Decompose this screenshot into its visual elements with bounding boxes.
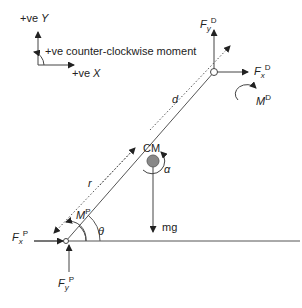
fyP-label: FyP [58,278,74,289]
legend-x-label: +ve X [72,68,100,79]
alpha-label: α [164,164,170,175]
center-of-mass [147,155,159,167]
fyD-label: FyD [200,19,217,30]
mD-arrow [235,85,256,100]
legend-moment-label: +ve counter-clockwise moment [45,46,196,57]
fxP-label: FxP [12,232,28,243]
d-label: d [172,94,178,105]
r-label: r [88,178,92,189]
proximal-joint [64,239,69,244]
mg-label: mg [162,222,177,233]
distal-joint [211,69,218,76]
fxD-label: FxD [254,66,271,77]
mP-label: MP [76,210,91,221]
dimension-r [54,148,135,233]
legend-y-label: +ve Y [20,13,48,24]
cm-label: CM [143,143,160,154]
theta-label: θ [98,226,104,237]
mD-label: MD [256,96,271,107]
